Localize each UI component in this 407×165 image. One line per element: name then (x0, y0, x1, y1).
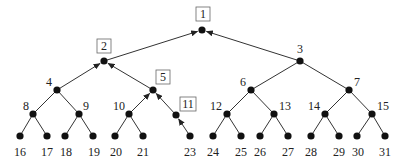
node-label-7: 7 (354, 75, 360, 89)
tree-node-25 (237, 132, 244, 139)
tree-node-9 (75, 110, 82, 117)
edge-24-to-12 (213, 114, 227, 136)
node-label-30: 30 (352, 145, 364, 159)
node-label-26: 26 (254, 145, 266, 159)
node-label-21: 21 (137, 145, 149, 159)
edge-29-to-14 (325, 114, 339, 136)
edge-25-to-12 (227, 114, 241, 136)
edge-17-to-8 (33, 114, 47, 136)
tree-node-7 (345, 86, 352, 93)
edge-26-to-13 (260, 114, 274, 136)
node-label-23: 23 (184, 145, 196, 159)
edge-10-to-5-arrow (129, 93, 150, 114)
edge-28-to-14 (311, 114, 325, 136)
tree-node-4 (53, 86, 60, 93)
node-label-18: 18 (60, 145, 72, 159)
tree-node-8 (29, 110, 36, 117)
edge-15-to-7 (349, 90, 372, 114)
tree-diagram: 1234567891011121314151617181920212324252… (0, 0, 407, 165)
node-label-31: 31 (379, 145, 391, 159)
node-label-5: 5 (160, 70, 166, 84)
node-label-12: 12 (210, 99, 222, 113)
tree-node-23 (186, 132, 193, 139)
edge-14-to-7 (325, 90, 349, 114)
tree-node-11 (172, 111, 179, 118)
node-label-8: 8 (23, 99, 29, 113)
node-label-2: 2 (101, 39, 107, 53)
node-label-17: 17 (41, 145, 53, 159)
node-label-28: 28 (305, 145, 317, 159)
node-label-6: 6 (240, 75, 246, 89)
node-label-9: 9 (83, 99, 89, 113)
edge-5-to-2-arrow (108, 63, 153, 90)
edge-27-to-13 (274, 114, 288, 136)
tree-node-15 (368, 110, 375, 117)
node-label-11: 11 (182, 97, 194, 111)
edge-6-to-3 (251, 61, 300, 90)
tree-node-16 (16, 132, 23, 139)
tree-node-2 (100, 57, 107, 64)
node-label-15: 15 (377, 99, 389, 113)
tree-node-1 (198, 26, 205, 33)
edge-12-to-6 (227, 90, 251, 114)
tree-node-5 (149, 86, 156, 93)
tree-node-13 (270, 110, 277, 117)
edge-2-to-1-arrow (104, 31, 198, 61)
tree-node-29 (335, 132, 342, 139)
edge-21-to-10 (129, 114, 143, 136)
tree-node-31 (381, 132, 388, 139)
edge-13-to-6 (251, 90, 274, 114)
tree-node-19 (89, 132, 96, 139)
node-label-27: 27 (282, 145, 294, 159)
edge-3-to-1-arrow (206, 31, 300, 61)
node-label-4: 4 (46, 75, 52, 89)
edge-20-to-10 (115, 114, 129, 136)
tree-node-10 (125, 110, 132, 117)
tree-node-30 (353, 132, 360, 139)
tree-node-20 (111, 132, 118, 139)
tree-node-18 (61, 132, 68, 139)
tree-node-26 (256, 132, 263, 139)
tree-node-21 (139, 132, 146, 139)
node-label-16: 16 (14, 145, 26, 159)
tree-node-12 (223, 110, 230, 117)
node-label-24: 24 (207, 145, 219, 159)
edge-16-to-8 (20, 114, 33, 136)
node-label-10: 10 (113, 99, 125, 113)
tree-node-14 (321, 110, 328, 117)
tree-node-17 (43, 132, 50, 139)
node-label-19: 19 (88, 145, 100, 159)
edge-19-to-9 (79, 114, 93, 136)
tree-node-24 (209, 132, 216, 139)
node-label-14: 14 (308, 99, 320, 113)
node-label-1: 1 (200, 7, 206, 21)
label-boxes-layer (97, 7, 210, 111)
edge-31-to-15 (372, 114, 385, 136)
node-label-13: 13 (279, 99, 291, 113)
edge-30-to-15 (357, 114, 372, 136)
tree-node-28 (307, 132, 314, 139)
node-label-29: 29 (333, 145, 345, 159)
edge-7-to-3 (300, 61, 349, 90)
tree-node-27 (284, 132, 291, 139)
edge-18-to-9 (65, 114, 79, 136)
nodes-layer (16, 26, 388, 139)
edge-9-to-4 (57, 90, 79, 114)
tree-node-3 (296, 57, 303, 64)
edge-8-to-4 (33, 90, 57, 114)
edge-4-to-2-arrow (57, 63, 100, 90)
tree-node-6 (247, 86, 254, 93)
node-label-20: 20 (110, 145, 122, 159)
edge-11-to-5-arrow (156, 93, 176, 115)
node-label-3: 3 (297, 42, 303, 56)
node-label-25: 25 (235, 145, 247, 159)
edges-layer (20, 31, 385, 136)
